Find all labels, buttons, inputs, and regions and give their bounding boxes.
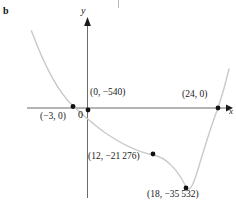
label-y-intercept: (0, −540) (90, 88, 125, 98)
label-x-intercept-left: (−3, 0) (40, 112, 66, 122)
y-axis-label: y (81, 6, 85, 16)
figure-panel: b y x 0 (−3, 0) (0, −540) (12, −21 276) … (0, 0, 236, 205)
point-inflection (151, 152, 156, 157)
origin-label: 0 (78, 110, 83, 120)
point-y-intercept (86, 108, 91, 113)
label-inflection-point: (12, −21 276) (88, 152, 140, 162)
label-local-minimum: (18, −35 532) (147, 190, 199, 200)
point-x-intercept-left (71, 104, 76, 109)
point-x-intercept-right (216, 106, 221, 111)
label-x-intercept-right: (24, 0) (182, 90, 207, 100)
y-axis-arrowhead (84, 17, 91, 26)
x-axis-label: x (229, 107, 233, 116)
plot-area (0, 0, 236, 205)
